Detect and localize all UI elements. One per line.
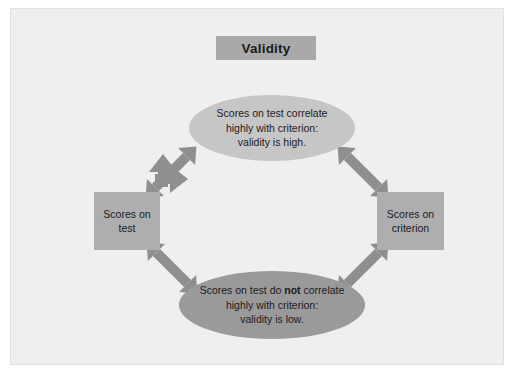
diagram-title-label: Validity bbox=[242, 41, 291, 56]
node-top-ellipse-line2: highly with criterion: bbox=[226, 122, 318, 134]
node-right-box-text: Scores on criterion bbox=[387, 207, 434, 236]
node-top-ellipse-line3: validity is high. bbox=[238, 136, 306, 148]
node-top-ellipse: Scores on test correlate highly with cri… bbox=[189, 95, 355, 161]
node-left-box-line2: test bbox=[119, 222, 136, 234]
diagram-title-box: Validity bbox=[216, 36, 316, 60]
node-right-box: Scores on criterion bbox=[377, 192, 444, 250]
node-left-box-text: Scores on test bbox=[103, 207, 150, 236]
node-bottom-ellipse-line1-post: correlate bbox=[301, 284, 345, 296]
validity-diagram-figure: Validity bbox=[0, 0, 514, 375]
node-top-ellipse-line1: Scores on test correlate bbox=[217, 107, 328, 119]
node-left-box: Scores on test bbox=[94, 192, 160, 250]
node-bottom-ellipse-line1-pre: Scores on test do bbox=[200, 284, 285, 296]
node-bottom-ellipse: Scores on test do not correlate highly w… bbox=[179, 271, 365, 339]
node-left-box-line1: Scores on bbox=[103, 208, 150, 220]
node-bottom-ellipse-line1-emphasis: not bbox=[284, 284, 300, 296]
node-right-box-line1: Scores on bbox=[387, 208, 434, 220]
node-top-ellipse-text: Scores on test correlate highly with cri… bbox=[217, 106, 328, 150]
node-bottom-ellipse-line3: validity is low. bbox=[240, 313, 304, 325]
diagram-frame: Validity bbox=[10, 8, 504, 365]
node-bottom-ellipse-text: Scores on test do not correlate highly w… bbox=[200, 283, 345, 327]
node-bottom-ellipse-line2: highly with criterion: bbox=[226, 299, 318, 311]
node-right-box-line2: criterion bbox=[392, 222, 429, 234]
